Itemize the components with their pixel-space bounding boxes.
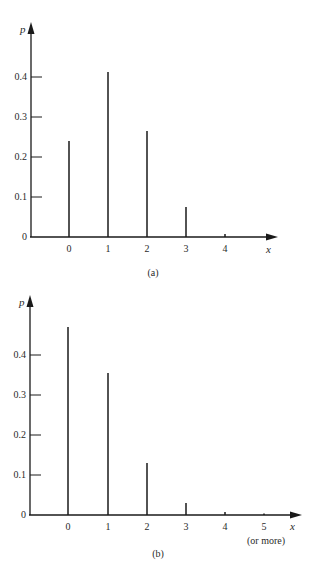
xtick-label: 2 — [145, 521, 150, 532]
xtick-label: 1 — [106, 243, 111, 254]
last-tick-note: (or more) — [247, 535, 285, 547]
xtick-label: 0 — [67, 243, 72, 254]
ytick-label: 0.4 — [14, 349, 27, 360]
xtick-label: 5 — [262, 521, 267, 532]
x-axis-label: x — [289, 520, 295, 532]
y-axis-arrow-icon — [28, 22, 35, 34]
xtick-label: 3 — [184, 243, 189, 254]
figure: p x 0.4 0.3 0.2 0.1 0 0 1 2 3 — [0, 0, 315, 570]
y-axis-label: p — [19, 23, 26, 35]
ytick-label: 0.3 — [14, 389, 27, 400]
xtick-label: 4 — [223, 521, 228, 532]
stems — [68, 327, 264, 515]
ytick-label: 0.2 — [14, 429, 27, 440]
ytick-label: 0.4 — [15, 71, 28, 82]
x-axis-arrow-icon — [266, 234, 278, 241]
panel-b: p x 0.4 0.3 0.2 0.1 0 0 1 2 3 4 5 — [14, 295, 303, 560]
y-ticks: 0.4 0.3 0.2 0.1 0 — [15, 71, 43, 242]
ytick-label: 0.3 — [15, 111, 28, 122]
panel-caption: (a) — [147, 267, 158, 279]
xtick-label: 0 — [66, 521, 71, 532]
x-axis-label: x — [265, 243, 271, 255]
xtick-label: 3 — [184, 521, 189, 532]
xtick-label: 1 — [106, 521, 111, 532]
y-axis-arrow-icon — [27, 295, 34, 307]
ytick-label: 0 — [21, 509, 26, 520]
panel-caption: (b) — [152, 548, 164, 560]
ytick-label: 0.1 — [15, 191, 28, 202]
xtick-label: 4 — [223, 243, 228, 254]
ytick-label: 0.1 — [14, 469, 27, 480]
stems — [69, 72, 225, 237]
ytick-label: 0 — [22, 231, 27, 242]
panel-a: p x 0.4 0.3 0.2 0.1 0 0 1 2 3 — [15, 22, 279, 279]
y-axis-label: p — [18, 296, 25, 308]
xtick-label: 2 — [145, 243, 150, 254]
y-ticks: 0.4 0.3 0.2 0.1 0 — [14, 349, 42, 520]
ytick-label: 0.2 — [15, 151, 28, 162]
x-axis-arrow-icon — [290, 512, 302, 519]
